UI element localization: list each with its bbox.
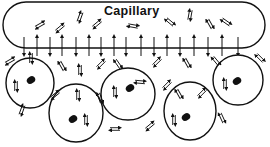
cell [101,68,155,120]
exchange-arrow-pair [183,58,190,68]
exchange-arrow-pair [221,18,231,26]
exchange-arrow-pair [219,113,226,123]
exchange-arrow-pair [128,24,138,28]
cell [49,84,103,142]
capillary-diagram [0,0,270,147]
cell [164,82,216,140]
exchange-arrow-pair [110,128,120,131]
exchange-arrow-pair [5,57,15,64]
capillary-wall-arrows [24,36,238,56]
exchange-arrow-pair [35,21,45,28]
exchange-arrow-pair [114,59,122,69]
exchange-arrow-pair [163,81,172,90]
cell-membrane [164,82,216,140]
exchange-arrow-pair [92,20,101,28]
exchange-arrow-pair [206,19,213,29]
exchange-arrow-pair [256,54,265,63]
exchange-arrow-pair [145,122,154,130]
exchange-arrow-pair [153,58,162,67]
exchange-arrow-pair [55,24,64,32]
exchange-arrow-pair [77,12,83,22]
cell-membrane [101,68,155,120]
cell [6,58,54,108]
capillary-label: Capillary [104,4,160,18]
exchange-arrow-pair [58,61,65,71]
exchange-arrow-pair [165,18,174,26]
exchange-arrow-pair [97,60,106,69]
cell-membrane [49,84,103,142]
cell [213,55,263,105]
exchange-arrow-pair [188,10,192,20]
tissue-cells [6,55,263,142]
exchange-arrow-pair [79,65,82,75]
